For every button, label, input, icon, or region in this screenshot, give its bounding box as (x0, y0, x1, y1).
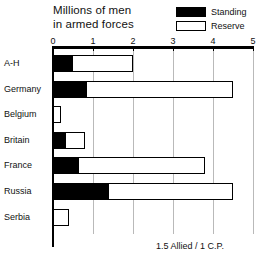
category-label-russia: Russia (4, 186, 32, 197)
category-label-a-h: A-H (4, 58, 20, 69)
bar-segment-reserve-belgium (53, 106, 61, 123)
x-tick-label-1: 1 (90, 36, 95, 46)
x-tick-mark-5 (253, 46, 254, 51)
plot-area (53, 49, 253, 234)
legend-swatch-reserve-icon (176, 21, 206, 31)
bar-segment-reserve-france (79, 157, 205, 174)
x-tick-mark-2 (133, 46, 134, 51)
bar-segment-reserve-serbia (53, 209, 69, 226)
chart-footnote: 1.5 Allied / 1 C.P. (156, 241, 224, 252)
chart-title-line-1: Millions of men (53, 4, 173, 18)
category-label-germany: Germany (4, 84, 41, 95)
x-tick-mark-3 (173, 46, 174, 51)
category-label-belgium: Belgium (4, 109, 37, 120)
bar-segment-reserve-germany (87, 81, 233, 98)
x-tick-label-3: 3 (170, 36, 175, 46)
x-tick-label-5: 5 (250, 36, 255, 46)
bar-segment-standing-britain (53, 132, 66, 149)
gridline-5 (253, 49, 254, 234)
bar-segment-reserve-britain (66, 132, 85, 149)
x-tick-mark-4 (213, 46, 214, 51)
bar-rows (53, 49, 253, 234)
x-tick-label-2: 2 (130, 36, 135, 46)
chart-title: Millions of men in armed forces (53, 4, 173, 31)
chart-legend: Standing Reserve (176, 6, 264, 34)
legend-label-reserve: Reserve (211, 21, 245, 31)
bar-segment-standing-russia (53, 183, 109, 200)
armed-forces-bar-chart: Millions of men in armed forces Standing… (0, 0, 266, 267)
bar-segment-standing-a-h (53, 55, 73, 72)
y-axis-category-labels: A-HGermanyBelgiumBritainFranceRussiaSerb… (0, 49, 50, 234)
chart-title-line-2: in armed forces (53, 18, 173, 32)
legend-swatch-standing-icon (176, 7, 206, 17)
legend-item-reserve: Reserve (176, 20, 264, 32)
bar-segment-standing-france (53, 157, 79, 174)
x-tick-label-4: 4 (210, 36, 215, 46)
x-tick-label-0: 0 (50, 36, 55, 46)
category-label-britain: Britain (4, 135, 30, 146)
x-tick-mark-1 (93, 46, 94, 51)
bar-segment-reserve-russia (109, 183, 233, 200)
x-tick-mark-0 (53, 46, 54, 51)
bar-segment-standing-germany (53, 81, 87, 98)
category-label-serbia: Serbia (4, 212, 30, 223)
legend-label-standing: Standing (211, 7, 247, 17)
bar-segment-reserve-a-h (73, 55, 133, 72)
legend-item-standing: Standing (176, 6, 264, 18)
category-label-france: France (4, 160, 32, 171)
